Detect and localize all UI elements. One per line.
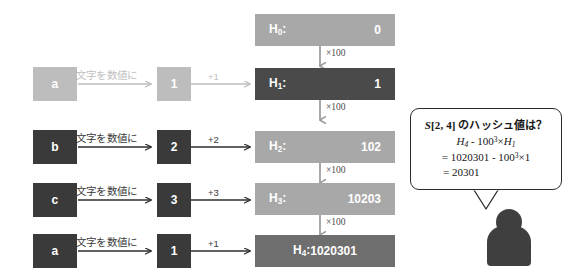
callout-line-2: H4 - 1003×H1 <box>419 135 553 149</box>
person-head-icon <box>496 209 522 235</box>
add-label-row-4: +1 <box>208 238 219 249</box>
number-box-row-2: 2 <box>157 130 191 164</box>
callout-line-4: = 20301 <box>419 166 553 178</box>
callout-question-text: のハッシュ値は？ <box>456 119 548 131</box>
hash-box-h1: H1: 1 <box>255 68 395 100</box>
multiply-label-2: ×100 <box>326 102 346 112</box>
question-callout: S[2, 4] のハッシュ値は？ H4 - 1003×H1 = 1020301 … <box>410 108 562 190</box>
callout-range: [2, 4] <box>431 119 455 131</box>
convert-label-row-4: 文字を数値に <box>76 234 137 249</box>
hash-box-h3-label: H3: <box>269 191 286 206</box>
hash-box-h0-label: H0: <box>269 22 286 37</box>
hash-box-h0-value: 0 <box>374 23 381 37</box>
add-label-row-1: +1 <box>208 71 219 82</box>
number-box-row-1: 1 <box>157 67 191 101</box>
multiply-label-4: ×100 <box>326 217 346 227</box>
number-box-row-3: 3 <box>157 183 191 217</box>
hash-box-h3: H3: 10203 <box>255 183 395 215</box>
hash-box-h2-value: 102 <box>361 140 381 154</box>
convert-label-row-1: 文字を数値に <box>76 67 137 82</box>
multiply-label-3: ×100 <box>326 165 346 175</box>
hash-box-h2-label: H2: <box>269 139 286 154</box>
hash-box-h4-label: H4: <box>293 243 310 258</box>
hash-box-h1-label: H1: <box>269 76 286 91</box>
multiply-label-1: ×100 <box>326 48 346 58</box>
callout-line-3: = 1020301 - 1003×1 <box>419 151 553 163</box>
hash-box-h4-value: 1020301 <box>310 244 357 258</box>
hash-box-h0: H0: 0 <box>255 14 395 46</box>
letter-box-row-3: c <box>33 183 77 217</box>
hash-box-h3-value: 10203 <box>348 192 381 206</box>
letter-box-row-2: b <box>33 130 77 164</box>
hash-box-h4: H4:1020301 <box>255 235 395 267</box>
letter-box-row-1: a <box>33 67 77 101</box>
callout-line-1: S[2, 4] のハッシュ値は？ <box>419 116 553 132</box>
diagram-canvas: a 文字を数値に 1 +1 b 文字を数値に 2 +2 c 文字を数値に 3 +… <box>0 0 583 276</box>
number-box-row-4: 1 <box>157 234 191 268</box>
convert-label-row-3: 文字を数値に <box>76 183 137 198</box>
letter-box-row-4: a <box>33 234 77 268</box>
add-label-row-2: +2 <box>208 134 219 145</box>
hash-box-h2: H2: 102 <box>255 131 395 163</box>
convert-label-row-2: 文字を数値に <box>76 130 137 145</box>
add-label-row-3: +3 <box>208 187 219 198</box>
hash-box-h1-value: 1 <box>374 77 381 91</box>
